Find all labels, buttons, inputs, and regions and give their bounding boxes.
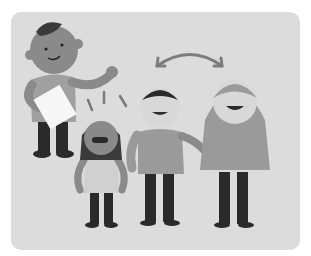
boy-figure: [131, 87, 206, 226]
long-hair-girl-figure: [200, 80, 270, 228]
curved-arrow-icon: [157, 55, 222, 67]
illustration-card: [11, 12, 300, 250]
children-illustration: [11, 12, 300, 250]
excitement-lines: [88, 92, 126, 110]
girl-figure: [78, 121, 125, 228]
